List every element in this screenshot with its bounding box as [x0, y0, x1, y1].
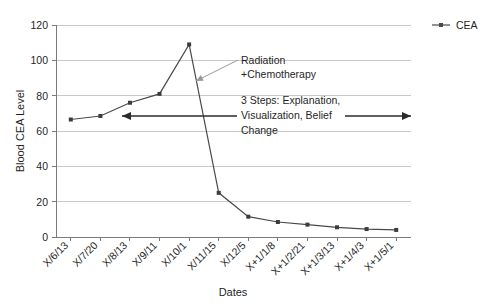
y-tick-label: 40: [36, 160, 48, 172]
annotation-line: Visualization, Belief: [241, 109, 332, 121]
x-axis-title: Dates: [219, 286, 248, 298]
x-axis-ticks-group: X/6/13X/7/20X/8/13X/9/11X/10/1X/11/15X/1…: [40, 237, 396, 277]
data-point-marker[interactable]: [246, 215, 250, 219]
y-tick-label: 20: [36, 196, 48, 208]
data-point-marker[interactable]: [276, 220, 280, 224]
data-point-marker[interactable]: [128, 101, 132, 105]
y-tick-label: 100: [30, 54, 48, 66]
x-tick-label: X/7/20: [70, 239, 100, 269]
annotation-line: Radiation: [241, 54, 286, 66]
y-axis-title: Blood CEA Level: [14, 90, 26, 173]
gridlines-group: [56, 25, 411, 202]
span-arrowhead-left: [122, 112, 131, 120]
chart-container: 020406080100120 X/6/13X/7/20X/8/13X/9/11…: [0, 0, 501, 308]
x-tick-label: X/6/13: [40, 239, 70, 269]
callout-leader-line: [196, 60, 238, 81]
x-tick-label: X+1/4/3: [332, 239, 366, 273]
cea-line-chart: 020406080100120 X/6/13X/7/20X/8/13X/9/11…: [0, 0, 501, 308]
y-tick-label: 80: [36, 90, 48, 102]
data-point-marker[interactable]: [98, 114, 102, 118]
x-tick-label: X/8/13: [99, 239, 129, 269]
y-axis-ticks-group: 020406080100120: [30, 19, 56, 243]
data-point-marker[interactable]: [365, 227, 369, 231]
three-steps-span-annotation: 3 Steps: Explanation,Visualization, Beli…: [122, 94, 411, 136]
legend: CEA: [432, 19, 478, 31]
y-tick-label: 120: [30, 19, 48, 31]
legend-marker: [439, 23, 443, 27]
data-point-marker[interactable]: [69, 118, 73, 122]
span-arrowhead-right: [402, 112, 411, 120]
x-tick-label: X/9/11: [130, 239, 160, 269]
data-point-marker[interactable]: [335, 225, 339, 229]
data-point-marker[interactable]: [305, 223, 309, 227]
annotation-line: +Chemotherapy: [241, 68, 317, 80]
y-tick-label: 60: [36, 125, 48, 137]
x-tick-label: X+1/5/1: [361, 239, 395, 273]
x-tick-label: X/11/15: [185, 239, 219, 273]
treatment-callout-annotation: Radiation+Chemotherapy: [196, 54, 317, 81]
legend-label: CEA: [456, 19, 478, 31]
y-tick-label: 0: [42, 231, 48, 243]
annotation-line: Change: [241, 124, 278, 136]
annotation-line: 3 Steps: Explanation,: [241, 94, 340, 106]
data-point-marker[interactable]: [394, 228, 398, 232]
data-point-marker[interactable]: [158, 92, 162, 96]
data-point-marker[interactable]: [187, 42, 191, 46]
series-group: [69, 42, 398, 232]
data-point-marker[interactable]: [217, 191, 221, 195]
